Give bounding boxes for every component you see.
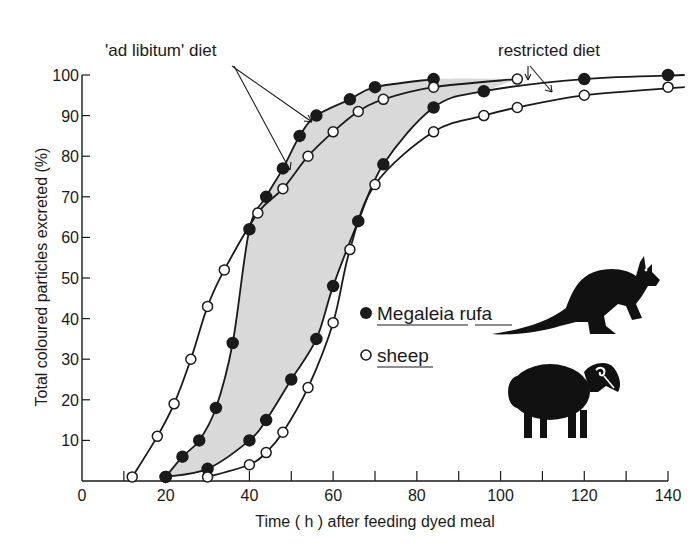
x-tick-label: 0	[78, 487, 87, 504]
y-tick-label: 90	[61, 108, 79, 125]
open-circle-marker	[429, 127, 439, 137]
filled-circle-marker	[261, 191, 272, 202]
y-axis-label: Total coloured particles excreted (%)	[33, 148, 50, 407]
open-circle-marker	[479, 111, 489, 121]
open-circle-marker	[370, 180, 380, 190]
x-axis-label: Time ( h ) after feeding dyed meal	[255, 513, 495, 530]
filled-circle-marker	[663, 70, 674, 81]
filled-circle-marker	[177, 451, 188, 462]
filled-circle-marker	[244, 435, 255, 446]
kangaroo-icon	[492, 256, 660, 335]
y-tick-label: 30	[61, 351, 79, 368]
open-circle-marker	[345, 245, 355, 255]
y-tick-label: 40	[61, 311, 79, 328]
y-tick-label: 10	[61, 432, 79, 449]
legend-sheep-label: sheep	[377, 345, 429, 366]
filled-circle-marker	[244, 224, 255, 235]
filled-circle-marker	[160, 471, 171, 482]
open-circle-marker	[429, 82, 439, 92]
shaded-area	[166, 78, 518, 476]
open-circle-marker	[261, 448, 271, 458]
open-circle-marker	[219, 265, 229, 275]
x-tick-label: 80	[408, 487, 426, 504]
restricted-arrows	[525, 66, 552, 92]
filled-circle-marker	[261, 415, 272, 426]
filled-circle-marker	[478, 86, 489, 97]
filled-circle-marker	[227, 337, 238, 348]
filled-circle-marker	[210, 402, 221, 413]
filled-circle-marker	[294, 130, 305, 141]
filled-circle-marker	[311, 333, 322, 344]
legend-megaleia-label: Megaleia rufa	[377, 303, 493, 324]
x-tick-label: 140	[655, 487, 682, 504]
open-circle-marker	[169, 399, 179, 409]
sheep-icon	[508, 363, 620, 438]
filled-circle-marker	[353, 216, 364, 227]
open-circle-marker	[152, 431, 162, 441]
open-circle-marker	[328, 318, 338, 328]
open-circle-marker	[278, 427, 288, 437]
open-circle-marker	[244, 460, 254, 470]
restricted-annotation: restricted diet	[498, 41, 600, 60]
open-circle-legend-icon	[361, 350, 371, 360]
open-circle-marker	[353, 107, 363, 117]
filled-circle-marker	[328, 281, 339, 292]
open-circle-marker	[127, 472, 137, 482]
x-tick-label: 100	[487, 487, 514, 504]
open-circle-marker	[378, 94, 388, 104]
filled-circle-marker	[194, 435, 205, 446]
filled-circle-marker	[378, 159, 389, 170]
y-tick-label: 50	[61, 270, 79, 287]
open-circle-marker	[253, 208, 263, 218]
y-tick-label: 100	[52, 67, 79, 84]
open-circle-marker	[278, 184, 288, 194]
x-tick-label: 20	[157, 487, 175, 504]
filled-circle-legend-icon	[360, 307, 372, 319]
open-circle-marker	[303, 383, 313, 393]
open-circle-marker	[512, 74, 522, 84]
open-circle-marker	[512, 102, 522, 112]
filled-circle-marker	[428, 102, 439, 113]
x-tick-label: 40	[241, 487, 259, 504]
open-circle-marker	[303, 151, 313, 161]
excretion-chart: 102030405060708090100020406080100120140 …	[0, 0, 692, 553]
filled-circle-marker	[344, 94, 355, 105]
filled-circle-marker	[579, 74, 590, 85]
open-circle-marker	[203, 472, 213, 482]
filled-circle-marker	[311, 110, 322, 121]
x-tick-label: 120	[571, 487, 598, 504]
shaded-difference-area	[166, 78, 518, 476]
open-circle-marker	[579, 90, 589, 100]
filled-circle-marker	[286, 374, 297, 385]
x-tick-label: 60	[324, 487, 342, 504]
y-tick-label: 20	[61, 392, 79, 409]
open-circle-marker	[186, 354, 196, 364]
open-circle-marker	[663, 82, 673, 92]
y-tick-label: 60	[61, 229, 79, 246]
open-circle-marker	[328, 127, 338, 137]
legend: Megaleia rufa sheep	[360, 303, 512, 367]
y-tick-label: 80	[61, 148, 79, 165]
open-circle-marker	[203, 301, 213, 311]
filled-circle-marker	[370, 82, 381, 93]
ad-libitum-annotation: 'ad libitum' diet	[105, 41, 217, 60]
y-tick-label: 70	[61, 189, 79, 206]
